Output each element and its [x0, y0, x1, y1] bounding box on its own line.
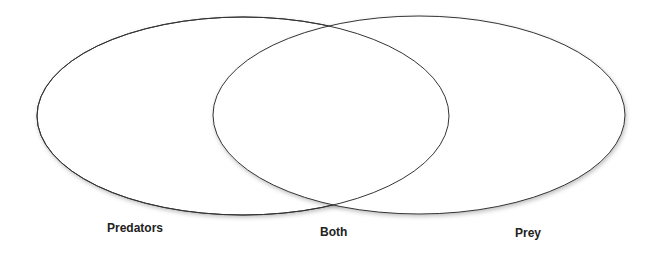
venn-diagram [0, 0, 660, 253]
prey-label: Prey [515, 226, 541, 240]
prey-set-ellipse [213, 16, 625, 214]
both-label: Both [320, 225, 347, 239]
predators-label: Predators [107, 221, 163, 235]
